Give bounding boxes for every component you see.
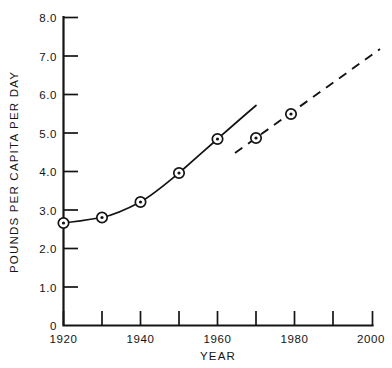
x-tick-label-1940: 1940 xyxy=(127,333,155,345)
y-tick-label-7: 7.0 xyxy=(39,51,57,63)
line-chart: 8.0 7.0 6.0 5.0 4.0 3.0 2.0 1.0 0 1920 1… xyxy=(0,0,392,368)
y-axis-title: POUNDS PER CAPITA PER DAY xyxy=(8,71,20,273)
x-tick-labels: 1920 1940 1960 1980 2000 xyxy=(50,333,385,345)
y-tick-label-6: 6.0 xyxy=(39,89,57,101)
y-tick-label-4: 4.0 xyxy=(39,166,57,178)
data-point-1980 xyxy=(286,109,296,119)
x-tick-label-2000: 2000 xyxy=(357,333,385,345)
data-point-1960 xyxy=(212,134,222,144)
y-tick-labels: 8.0 7.0 6.0 5.0 4.0 3.0 2.0 1.0 0 xyxy=(39,12,57,332)
data-point-1920 xyxy=(58,218,68,228)
measured-solid-line xyxy=(64,106,257,224)
y-tick-label-2: 2.0 xyxy=(39,243,57,255)
x-tick-label-1960: 1960 xyxy=(204,333,232,345)
y-tick-marks xyxy=(64,18,79,288)
x-tick-label-1980: 1980 xyxy=(281,333,309,345)
y-tick-label-3: 3.0 xyxy=(39,205,57,217)
x-tick-label-1920: 1920 xyxy=(50,333,78,345)
y-tick-label-1: 1.0 xyxy=(39,282,57,294)
y-tick-label-8: 8.0 xyxy=(39,12,57,24)
data-point-markers xyxy=(58,109,296,228)
data-point-1970 xyxy=(251,133,261,143)
axis-lines xyxy=(64,17,373,326)
data-point-1940 xyxy=(135,197,145,207)
axis-group xyxy=(64,17,373,326)
measured-series xyxy=(64,106,257,224)
y-tick-label-0: 0 xyxy=(50,320,57,332)
chart-canvas: 8.0 7.0 6.0 5.0 4.0 3.0 2.0 1.0 0 1920 1… xyxy=(0,0,392,368)
data-point-1950 xyxy=(174,168,184,178)
data-point-1930 xyxy=(97,212,107,222)
y-tick-label-5: 5.0 xyxy=(39,128,57,140)
x-tick-marks xyxy=(64,311,373,326)
x-axis-title: YEAR xyxy=(200,350,236,362)
